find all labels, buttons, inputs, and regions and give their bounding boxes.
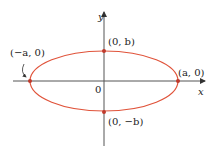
- y-axis-label: y: [97, 11, 104, 22]
- point-left: [28, 79, 32, 83]
- point-bottom: [102, 110, 106, 114]
- top-point-label: (0, b): [108, 36, 135, 47]
- point-top: [102, 49, 106, 53]
- origin-label: 0: [95, 84, 101, 95]
- left-point-label: (−a, 0): [10, 47, 45, 58]
- pointer-arrow: [22, 64, 26, 77]
- point-right: [176, 79, 180, 83]
- ellipse-diagram: y x 0 (−a, 0) (a, 0) (0, b) (0, −b): [0, 0, 214, 148]
- x-axis-label: x: [198, 86, 204, 97]
- bottom-point-label: (0, −b): [108, 116, 143, 127]
- right-point-label: (a, 0): [178, 67, 205, 78]
